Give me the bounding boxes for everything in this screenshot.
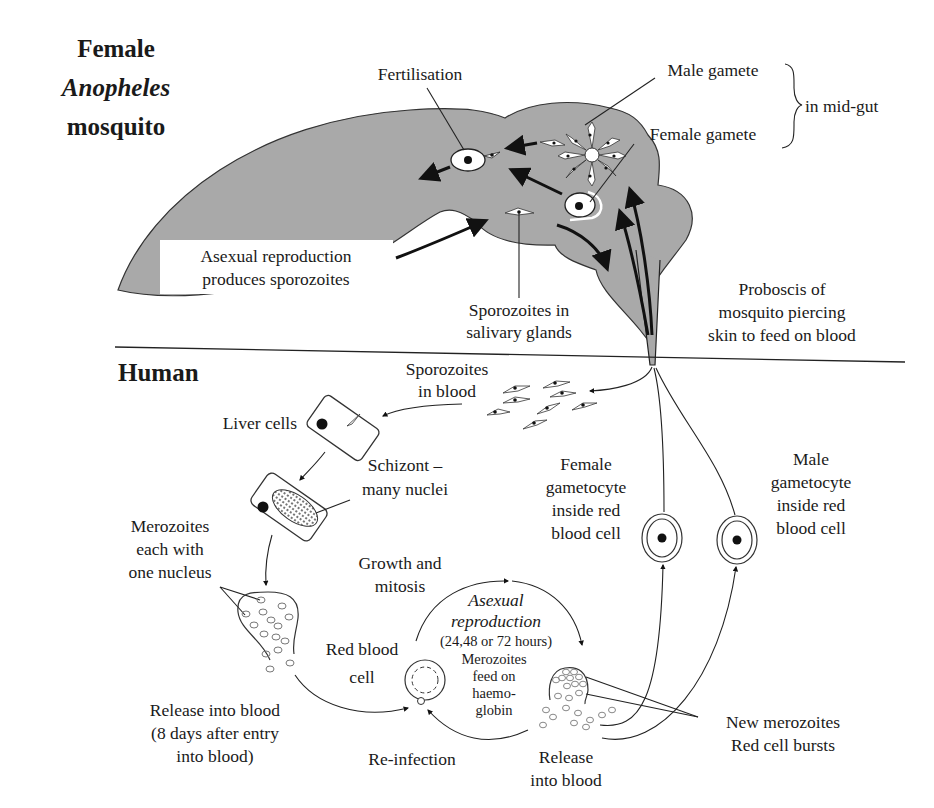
schizont-line1: Schizont – (368, 455, 443, 475)
proboscis-line3: skin to feed on blood (708, 325, 856, 345)
new-merozoites-label: New merozoites (726, 712, 840, 732)
mosquito-title-line2: Anopheles (60, 74, 170, 101)
release2-line1: Release (539, 747, 594, 767)
male-gametocyte-line1: Male (793, 449, 829, 469)
hours-label: (24,48 or 72 hours) (440, 633, 552, 650)
mosquito-body (118, 103, 692, 365)
arrow-sporozoites-to-liver (383, 404, 462, 416)
mosquito-title-line3: mosquito (67, 113, 166, 140)
female-gamete-label: Female gamete (650, 124, 757, 144)
arrow-proboscis-to-sporozoites (590, 367, 652, 391)
proboscis-line1: Proboscis of (738, 279, 825, 299)
sporozoites-salivary-line2: salivary glands (466, 322, 572, 342)
female-gametocyte-icon (642, 514, 682, 562)
red-cell-bursts-label: Red cell bursts (731, 735, 835, 755)
female-gametocyte-line3: inside red (552, 500, 621, 520)
male-gamete-label: Male gamete (668, 60, 759, 80)
merozoites-line3: one nucleus (128, 562, 211, 582)
liver-cells-label: Liver cells (223, 413, 298, 433)
malaria-life-cycle-diagram: Female Anopheles mosquito Fertilisation … (0, 0, 934, 808)
liver-cell-icon (305, 394, 381, 463)
reinfection-label: Re-infection (368, 749, 456, 769)
female-gametocyte-line1: Female (560, 454, 612, 474)
release-line3: into blood) (176, 746, 253, 766)
release2-line2: into blood (530, 770, 602, 790)
sporozoites-blood-line1: Sporozoites (406, 359, 489, 379)
schizont-icon (249, 471, 330, 543)
fertilisation-label: Fertilisation (378, 64, 463, 84)
human-title: Human (118, 359, 199, 386)
rbc-line1: Red blood (326, 639, 399, 659)
asexual-repro-line2: reproduction (451, 611, 541, 631)
growth-line1: Growth and (358, 553, 441, 573)
arrow-schizont-to-merozoites (266, 535, 272, 585)
merozoites-line2: each with (136, 539, 204, 559)
schizont-line2: many nuclei (362, 479, 448, 499)
male-gametocyte-line3: inside red (777, 495, 846, 515)
in-mid-gut-label: in mid-gut (805, 96, 879, 116)
asexual-repro-line1: Asexual (467, 590, 524, 610)
growth-line2: mitosis (375, 576, 426, 596)
proboscis-line2: mosquito piercing (719, 302, 846, 322)
mid-gut-brace (782, 64, 802, 148)
sporozoites-salivary-line1: Sporozoites in (469, 300, 570, 320)
merozoite-release-icon (238, 592, 298, 672)
feed-line1: Merozoites (461, 651, 527, 667)
red-blood-cell-icon (405, 660, 445, 705)
rbc-line2: cell (349, 667, 374, 687)
merozoites-line1: Merozoites (131, 516, 210, 536)
male-gametocyte-icon (717, 516, 757, 564)
female-gametocyte-line4: blood cell (551, 523, 621, 543)
arrow-to-male-gametocyte (602, 567, 736, 739)
arrow-liver-to-schizont (300, 452, 325, 480)
skin-divider (115, 347, 905, 362)
female-gametocyte-line2: gametocyte (546, 477, 627, 497)
male-gametocyte-line4: blood cell (776, 518, 846, 538)
feed-line4: globin (475, 702, 513, 718)
feed-line2: feed on (472, 668, 516, 684)
asexual-reproduction-line2: produces sporozoites (202, 269, 349, 289)
release-line2: (8 days after entry (151, 723, 279, 743)
bursting-red-cell-icon (540, 668, 616, 730)
feed-line3: haemo- (472, 685, 516, 701)
male-gametocyte-line2: gametocyte (771, 472, 852, 492)
release-line1: Release into blood (150, 700, 281, 720)
mosquito-title-line1: Female (77, 35, 155, 62)
line-proboscis-to-male-gametocyte (656, 368, 735, 515)
sporozoites-swarm-icon (487, 381, 597, 429)
sporozoites-blood-line2: in blood (418, 381, 476, 401)
asexual-reproduction-line1: Asexual reproduction (200, 246, 351, 266)
line-proboscis-to-female-gametocyte (654, 368, 664, 512)
